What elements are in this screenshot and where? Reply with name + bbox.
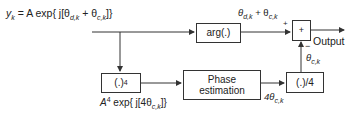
phase-estimation-line2: estimation bbox=[199, 85, 245, 97]
divide-output-label: θc,k bbox=[306, 53, 320, 63]
summer-plus-sign: + bbox=[283, 20, 288, 28]
arg-out-mid: + θ bbox=[253, 7, 269, 18]
divide4-block: (.)/4 bbox=[286, 72, 324, 93]
input-mid: + θ bbox=[79, 7, 97, 19]
divide4-label: (.)/4 bbox=[296, 77, 314, 89]
power4-block: (.)4 bbox=[101, 73, 141, 93]
phase-estimation-block: Phase estimation bbox=[183, 70, 261, 100]
output-label: Output bbox=[313, 36, 345, 47]
input-rhs-prefix: = A exp{ j[θ bbox=[15, 7, 70, 19]
p4-out-sub: c,k bbox=[152, 103, 161, 110]
arg-output-label: θd,k + θc,k bbox=[238, 8, 278, 18]
input-suffix: ]} bbox=[106, 7, 112, 19]
summer-block: + bbox=[292, 20, 311, 41]
arg-out-a-sub: d,k bbox=[243, 13, 252, 20]
phase-out-prefix: 4θ bbox=[264, 91, 274, 102]
p4-out-mid: exp{ j[4θ bbox=[111, 97, 152, 108]
arg-out-b-sub: c,k bbox=[269, 13, 278, 20]
div-out-sub: c,k bbox=[311, 58, 320, 65]
phase-out-sub: c,k bbox=[274, 97, 283, 104]
p4-out-suffix: ]} bbox=[161, 97, 167, 108]
input-sub1: d,k bbox=[70, 14, 79, 21]
p4-out-prefix: A bbox=[100, 97, 107, 108]
input-sub2: c,k bbox=[97, 14, 106, 21]
phase-output-label: 4θc,k bbox=[264, 92, 283, 102]
arg-block-label: arg(.) bbox=[207, 27, 231, 39]
power4-label: (.) bbox=[114, 77, 123, 89]
power4-output-label: A4 exp{ j[4θc,k]} bbox=[100, 98, 167, 108]
summer-minus-sign: − bbox=[305, 42, 310, 51]
phase-estimation-line1: Phase bbox=[208, 74, 236, 86]
input-signal-label: yk = A exp{ j[θd,k + θc,k]} bbox=[6, 8, 112, 19]
summer-label: + bbox=[299, 25, 304, 35]
arg-block: arg(.) bbox=[196, 23, 241, 43]
